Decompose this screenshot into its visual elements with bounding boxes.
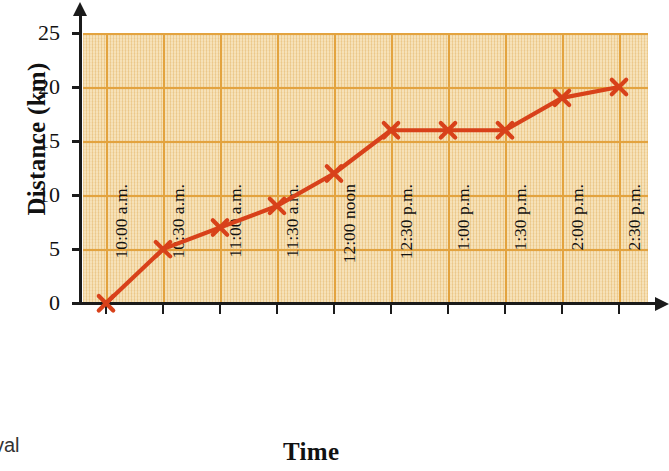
x-axis-arrow-icon bbox=[655, 297, 669, 311]
y-tick-15 bbox=[72, 140, 81, 143]
x-tick-6 bbox=[390, 305, 392, 314]
gridline-vertical-7 bbox=[448, 33, 450, 303]
x-tick-8 bbox=[504, 305, 506, 314]
gridline-vertical-4 bbox=[277, 33, 279, 303]
x-tick-3 bbox=[219, 305, 221, 314]
x-tick-label-1: 10:00 a.m. bbox=[113, 184, 131, 314]
gridline-vertical-3 bbox=[220, 33, 222, 303]
x-tick-5 bbox=[333, 305, 335, 314]
x-tick-label-9: 2:00 p.m. bbox=[569, 184, 587, 314]
x-tick-label-5: 12:00 noon bbox=[341, 184, 359, 314]
x-tick-label-2: 10:30 a.m. bbox=[170, 184, 188, 314]
plot-area bbox=[83, 33, 648, 303]
gridline-vertical-9 bbox=[562, 33, 564, 303]
x-tick-label-8: 1:30 p.m. bbox=[512, 184, 530, 314]
x-tick-7 bbox=[447, 305, 449, 314]
y-axis-title: Distance (km) bbox=[23, 24, 51, 254]
x-tick-9 bbox=[561, 305, 563, 314]
distance-time-line-chart: 25 20 15 10 5 0 10:00 a.m. 10:30 a.m. 11… bbox=[0, 0, 669, 471]
x-tick-4 bbox=[276, 305, 278, 314]
x-tick-2 bbox=[162, 305, 164, 314]
gridline-vertical-10 bbox=[619, 33, 621, 303]
y-axis-arrow-icon bbox=[73, 2, 87, 16]
gridline-vertical-6 bbox=[391, 33, 393, 303]
y-tick-5 bbox=[72, 248, 81, 251]
gridline-vertical-8 bbox=[505, 33, 507, 303]
x-tick-label-7: 1:00 p.m. bbox=[455, 184, 473, 314]
x-tick-label-10: 2:30 p.m. bbox=[626, 184, 644, 314]
x-tick-label-4: 11:30 a.m. bbox=[284, 184, 302, 314]
x-axis-title: Time bbox=[283, 438, 339, 466]
gridline-vertical-1 bbox=[106, 33, 108, 303]
gridline-vertical-2 bbox=[163, 33, 165, 303]
y-tick-label-0: 0 bbox=[34, 292, 60, 314]
x-tick-label-6: 12:30 p.m. bbox=[398, 184, 416, 314]
y-tick-10 bbox=[72, 194, 81, 197]
gridline-vertical-5 bbox=[334, 33, 336, 303]
y-tick-20 bbox=[72, 86, 81, 89]
x-tick-10 bbox=[618, 305, 620, 314]
x-tick-1 bbox=[105, 305, 107, 314]
y-tick-25 bbox=[72, 32, 81, 35]
page-text-fragment: val bbox=[0, 434, 20, 457]
x-tick-label-3: 11:00 a.m. bbox=[227, 184, 245, 314]
y-tick-0 bbox=[72, 302, 81, 305]
y-axis-line bbox=[79, 12, 82, 305]
